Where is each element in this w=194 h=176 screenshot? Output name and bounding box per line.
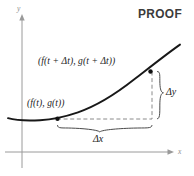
delta-x-brace <box>58 126 153 132</box>
upper-point-label: (f(t + Δt), g(t + Δt)) <box>38 57 115 67</box>
proof-figure: PROOF y x (f(t + Δt), g(t + Δt)) (f(t), … <box>0 0 194 176</box>
delta-x-label: Δx <box>93 134 103 144</box>
x-axis-arrowhead <box>168 149 175 154</box>
y-axis-label: y <box>17 5 20 13</box>
lower-point-marker <box>55 117 59 121</box>
y-axis-arrowhead <box>19 14 24 21</box>
proof-heading: PROOF <box>138 7 182 21</box>
x-axis-label: x <box>178 148 181 156</box>
upper-point-marker <box>148 69 152 73</box>
figure-canvas <box>0 0 194 176</box>
delta-y-label: Δy <box>166 87 176 97</box>
delta-y-brace <box>158 72 164 119</box>
lower-point-label: (f(t), g(t)) <box>27 99 65 109</box>
